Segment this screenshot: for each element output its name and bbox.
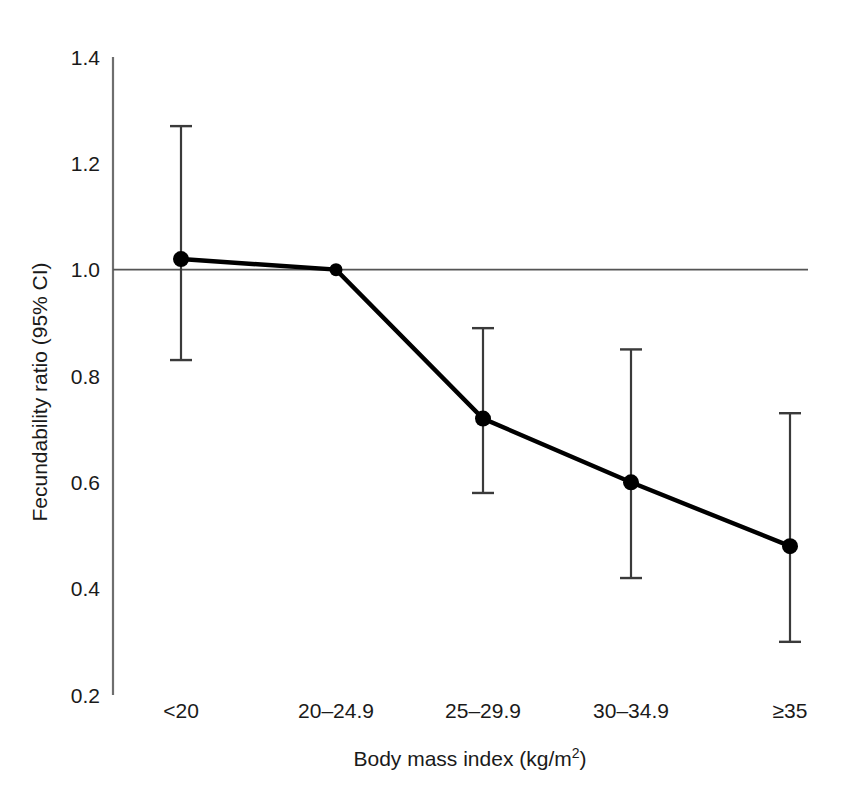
x-axis-title-close: ) [580,747,587,770]
x-tick-label-25-29.9: 25–29.9 [445,699,521,722]
data-point-markers [173,251,798,554]
x-axis-title-main: Body mass index (kg/m [353,747,571,770]
data-point-marker [330,263,343,276]
x-tick-label-lt20: <20 [163,699,199,722]
error-bars-group [170,126,801,642]
data-point-marker [173,251,189,267]
y-tick-label: 0.8 [71,365,100,388]
x-tick-label-30-34.9: 30–34.9 [593,699,669,722]
data-point-marker [475,411,491,427]
fecundability-ratio-chart: 1.4 1.2 1.0 0.8 0.6 0.4 0.2 Fecundabilit… [0,0,851,798]
x-axis-category-labels: <20 20–24.9 25–29.9 30–34.9 ≥35 [163,699,807,722]
y-tick-label: 0.6 [71,471,100,494]
fecundability-trend-line [181,259,790,546]
x-axis-title-superscript: 2 [572,745,580,761]
x-tick-label-ge35: ≥35 [773,699,808,722]
data-point-marker [623,474,639,490]
y-tick-label: 1.4 [71,46,101,69]
x-axis-title: Body mass index (kg/m2) [353,745,586,770]
y-tick-label: 0.2 [71,684,100,707]
figure-container: 1.4 1.2 1.0 0.8 0.6 0.4 0.2 Fecundabilit… [0,0,851,798]
y-tick-label: 1.0 [71,258,100,281]
y-axis-title: Fecundability ratio (95% CI) [28,262,51,521]
y-axis-tick-labels: 1.4 1.2 1.0 0.8 0.6 0.4 0.2 [71,46,101,707]
data-point-marker [782,538,798,554]
y-tick-label: 1.2 [71,152,100,175]
x-tick-label-20-24.9: 20–24.9 [298,699,374,722]
y-tick-label: 0.4 [71,577,101,600]
